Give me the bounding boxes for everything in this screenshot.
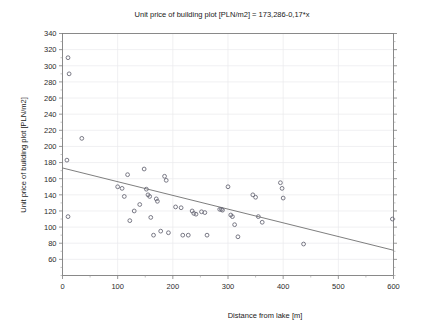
- data-point: [67, 72, 71, 76]
- y-tick-label: 340: [44, 29, 57, 38]
- x-tick-label: 400: [277, 282, 290, 291]
- y-tick-label: 100: [44, 223, 57, 232]
- data-point: [66, 56, 70, 60]
- y-tick-label: 260: [44, 94, 57, 103]
- y-tick-label: 60: [48, 255, 56, 264]
- x-axis-title: Distance from lake [m]: [228, 311, 303, 320]
- data-point: [120, 186, 124, 190]
- data-point: [138, 203, 142, 207]
- data-point: [174, 205, 178, 209]
- data-point: [260, 220, 264, 224]
- data-point: [163, 174, 167, 178]
- y-tick-label: 200: [44, 142, 57, 151]
- data-point: [302, 242, 306, 246]
- y-tick-labels: 6080100120140160180200220240260280300320…: [44, 29, 57, 264]
- y-tick-label: 180: [44, 158, 57, 167]
- y-tick-label: 220: [44, 126, 57, 135]
- data-point: [236, 235, 240, 239]
- x-tick-label: 0: [60, 282, 64, 291]
- chart-title: Unit price of building plot [PLN/m2] = 1…: [135, 10, 310, 19]
- data-point: [181, 233, 185, 237]
- data-point: [126, 173, 130, 177]
- scatter-plot: Unit price of building plot [PLN/m2] = 1…: [0, 0, 443, 334]
- y-tick-label: 280: [44, 78, 57, 87]
- data-point: [254, 195, 258, 199]
- data-point: [65, 158, 69, 162]
- chart-container: Unit price of building plot [PLN/m2] = 1…: [0, 0, 443, 334]
- y-tick-label: 80: [48, 239, 56, 248]
- y-tick-label: 160: [44, 175, 57, 184]
- data-point: [205, 233, 209, 237]
- data-point: [167, 231, 171, 235]
- gridlines: [63, 34, 394, 276]
- x-tick-label: 600: [387, 282, 400, 291]
- data-point: [159, 229, 163, 233]
- y-tick-label: 140: [44, 191, 57, 200]
- x-tick-label: 200: [167, 282, 180, 291]
- x-tick-label: 500: [332, 282, 345, 291]
- y-tick-label: 240: [44, 110, 57, 119]
- data-point: [233, 223, 237, 227]
- y-axis-title: Unit price of building plot [PLN/m2]: [19, 97, 28, 212]
- data-point: [152, 233, 156, 237]
- y-tick-label: 120: [44, 207, 57, 216]
- data-point: [80, 136, 84, 140]
- y-tick-label: 320: [44, 45, 57, 54]
- data-points: [65, 56, 394, 246]
- data-point: [179, 206, 183, 210]
- x-tick-label: 100: [111, 282, 124, 291]
- data-point: [149, 216, 153, 220]
- x-tick-label: 300: [222, 282, 235, 291]
- y-tick-label: 300: [44, 62, 57, 71]
- data-point: [128, 219, 132, 223]
- x-tick-labels: 0100200300400500600: [60, 282, 399, 291]
- data-point: [279, 181, 283, 185]
- data-point: [186, 233, 190, 237]
- data-point: [142, 167, 146, 171]
- data-point: [66, 215, 70, 219]
